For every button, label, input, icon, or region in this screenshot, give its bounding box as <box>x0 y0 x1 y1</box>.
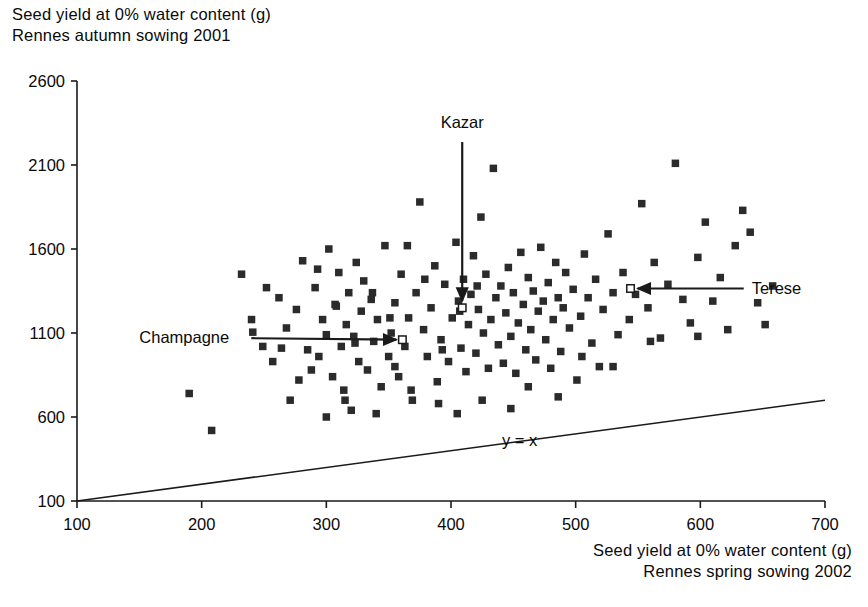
data-point <box>507 405 514 413</box>
data-point <box>293 306 301 314</box>
data-point <box>351 339 359 347</box>
data-point <box>460 275 468 283</box>
data-point <box>664 281 672 289</box>
data-point <box>507 333 514 341</box>
data-point <box>569 286 577 294</box>
data-point <box>754 299 762 307</box>
data-point <box>452 239 460 247</box>
data-point <box>409 396 417 404</box>
data-points <box>185 160 776 435</box>
data-point <box>431 262 439 270</box>
data-point <box>299 257 307 265</box>
data-point <box>549 316 557 324</box>
data-point <box>437 336 445 344</box>
data-point <box>278 344 286 352</box>
data-point <box>510 289 518 297</box>
data-point <box>249 328 257 336</box>
data-point <box>286 396 294 404</box>
data-point <box>357 307 365 315</box>
data-point <box>512 370 520 378</box>
data-point <box>505 264 513 272</box>
data-point <box>424 353 432 361</box>
annotation-label: Kazar <box>441 113 485 131</box>
data-point <box>404 242 412 250</box>
data-point <box>525 383 533 391</box>
data-point <box>679 296 687 304</box>
data-point <box>238 270 246 278</box>
x-tick-label: 600 <box>687 515 715 533</box>
data-point <box>420 326 428 334</box>
data-point <box>626 316 634 324</box>
data-point <box>609 289 617 297</box>
data-point <box>467 291 475 299</box>
data-point <box>341 396 349 404</box>
data-point <box>385 353 393 361</box>
data-point <box>333 302 341 310</box>
data-point <box>439 346 447 354</box>
data-point <box>355 358 363 366</box>
x-tick-label: 200 <box>188 515 216 533</box>
data-point <box>500 359 508 367</box>
data-point <box>323 413 331 421</box>
data-point <box>248 316 256 324</box>
data-point <box>364 366 372 374</box>
data-point <box>485 365 493 373</box>
data-point <box>315 353 323 361</box>
data-point <box>283 324 291 332</box>
data-point <box>604 230 612 238</box>
data-point <box>381 242 389 250</box>
data-point <box>599 306 607 314</box>
data-point <box>687 319 695 327</box>
annotation-arrow <box>251 338 396 340</box>
x-axis-title-line1: Seed yield at 0% water content (g) <box>593 540 852 561</box>
data-point <box>614 331 622 339</box>
x-axis-title: Seed yield at 0% water content (g) Renne… <box>593 540 852 582</box>
data-point <box>559 304 567 312</box>
data-point <box>259 343 267 351</box>
data-point <box>739 207 747 215</box>
data-point <box>421 275 429 283</box>
data-point <box>647 338 655 346</box>
data-point <box>478 396 486 404</box>
data-point <box>544 279 552 287</box>
data-point <box>360 277 368 285</box>
y-tick-label: 2600 <box>28 72 65 90</box>
data-point <box>345 289 353 297</box>
data-point <box>717 274 725 282</box>
named-variety-marker <box>458 304 466 312</box>
data-point <box>596 363 604 371</box>
data-point <box>338 343 346 351</box>
data-point <box>407 386 415 394</box>
data-point <box>477 213 485 221</box>
data-point <box>208 427 216 435</box>
data-point <box>581 250 589 257</box>
data-point <box>490 165 498 173</box>
data-point <box>702 218 710 226</box>
data-point <box>304 346 312 354</box>
data-point <box>448 314 456 322</box>
plot-area: 1006001100160021002600100200300400500600… <box>0 0 868 607</box>
y-tick-label: 600 <box>37 408 65 426</box>
data-point <box>473 282 481 290</box>
annotations: ChampagneKazarTerese <box>139 113 801 346</box>
data-point <box>416 198 424 206</box>
data-point <box>573 376 581 384</box>
data-point <box>386 314 394 322</box>
y-equals-x-line <box>77 400 825 501</box>
data-point <box>397 270 405 278</box>
data-point <box>724 326 732 334</box>
data-point <box>372 410 380 418</box>
data-point <box>657 334 665 342</box>
data-point <box>387 329 395 337</box>
data-point <box>391 299 399 307</box>
data-point <box>532 356 540 364</box>
x-tick-label: 300 <box>313 515 341 533</box>
data-point <box>562 269 570 277</box>
data-point <box>492 294 500 302</box>
data-point <box>323 331 331 339</box>
data-point <box>537 244 545 252</box>
data-point <box>269 358 277 366</box>
data-point <box>391 363 399 371</box>
y-tick-label: 100 <box>37 492 65 510</box>
data-point <box>340 386 348 394</box>
